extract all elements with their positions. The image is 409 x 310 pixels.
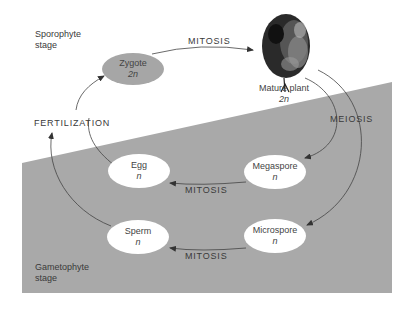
tree-icon — [262, 14, 310, 92]
zygote-name: Zygote — [102, 58, 164, 69]
sperm-ploidy: n — [107, 237, 169, 248]
sperm-name: Sperm — [107, 226, 169, 237]
mature-plant-name: Mature plant — [244, 83, 324, 94]
gametophyte-label-line2: stage — [35, 273, 89, 284]
mitosis-label-top: MITOSIS — [188, 36, 230, 47]
zygote-node: Zygote 2n — [102, 58, 164, 80]
mature-plant-ploidy: 2n — [244, 94, 324, 105]
megaspore-node: Megaspore n — [244, 161, 306, 183]
sperm-node: Sperm n — [107, 226, 169, 248]
meiosis-label: MEIOSIS — [330, 114, 373, 125]
megaspore-ploidy: n — [244, 172, 306, 183]
arrow-fertilization-to-zygote — [76, 76, 104, 110]
zygote-ploidy: 2n — [102, 69, 164, 80]
egg-node: Egg n — [108, 160, 170, 182]
mitosis-label-egg: MITOSIS — [185, 185, 227, 196]
arrow-zygote-to-plant — [152, 47, 253, 54]
gametophyte-label-line1: Gametophyte — [35, 262, 89, 273]
mature-plant-node: Mature plant 2n — [244, 83, 324, 105]
fertilization-label: FERTILIZATION — [34, 118, 110, 129]
microspore-ploidy: n — [244, 236, 306, 247]
egg-ploidy: n — [108, 171, 170, 182]
sporophyte-stage-label: Sporophyte stage — [35, 29, 81, 51]
sporophyte-label-line2: stage — [35, 40, 81, 51]
mitosis-label-sperm: MITOSIS — [185, 251, 227, 262]
gametophyte-stage-label: Gametophyte stage — [35, 262, 89, 284]
megaspore-name: Megaspore — [244, 161, 306, 172]
microspore-name: Microspore — [244, 225, 306, 236]
sporophyte-label-line1: Sporophyte — [35, 29, 81, 40]
egg-name: Egg — [108, 160, 170, 171]
microspore-node: Microspore n — [244, 225, 306, 247]
